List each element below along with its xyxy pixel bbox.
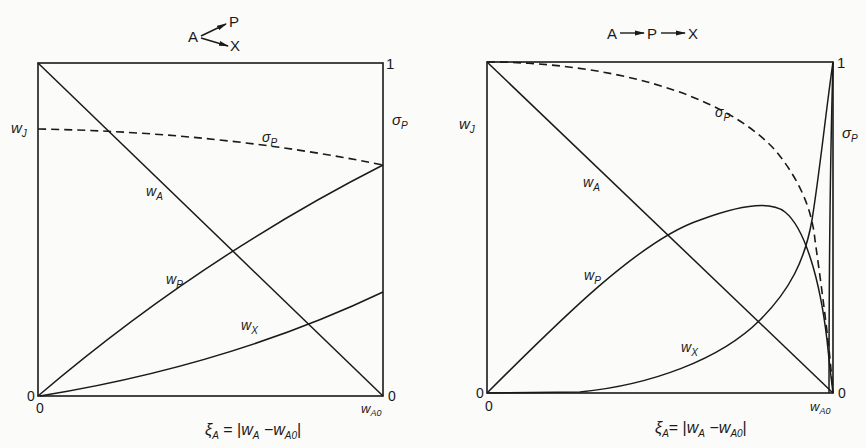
left-chart: A P X wA σP wP wX wJ σP 1 0 0 0 wA0 ξA =… (11, 13, 408, 441)
left-curve-wP (38, 165, 383, 396)
left-y2-axis-label: σP (392, 111, 408, 131)
scheme-product-x: X (230, 37, 240, 54)
left-curve-sigmaP (38, 129, 383, 165)
right-curve-wP (487, 205, 833, 393)
arrow-to-x-icon (201, 38, 228, 46)
left-curve-wA (38, 63, 383, 396)
scheme-reactant-a: A (188, 28, 198, 45)
right-x-axis-label: ξA= |wA −wA0| (655, 419, 747, 439)
arrow-to-p-icon (201, 24, 226, 36)
left-y-tick-zero: 0 (27, 388, 35, 404)
left-y2-tick-one: 1 (386, 55, 394, 72)
right-y-axis-label: wJ (459, 115, 476, 135)
right-chart: A P X wA σP wP wX wJ σP 1 0 0 0 wA0 ξA= … (459, 25, 858, 439)
right-x-tick-wA0: wA0 (810, 399, 830, 416)
right-label-wP: wP (584, 267, 601, 286)
scheme-product-p: P (229, 13, 239, 30)
figure-canvas: A P X wA σP wP wX wJ σP 1 0 0 0 wA0 ξA =… (0, 0, 866, 448)
left-x-axis-label: ξA = |wA −wA0| (205, 421, 301, 441)
left-label-wP: wP (166, 271, 183, 290)
left-label-wX: wX (241, 317, 258, 336)
left-x-tick-wA0: wA0 (361, 401, 381, 418)
right-curve-wA (487, 62, 833, 393)
right-x-tick-zero: 0 (485, 398, 493, 414)
right-y2-tick-zero: 0 (838, 385, 846, 401)
scheme-product-x: X (688, 25, 698, 42)
scheme-reactant-a: A (607, 25, 617, 42)
left-y2-tick-zero: 0 (388, 388, 396, 404)
left-label-wA: wA (146, 183, 163, 202)
left-y-axis-label: wJ (11, 119, 28, 139)
right-y2-axis-label: σP (842, 124, 858, 144)
right-label-wA: wA (583, 174, 600, 193)
right-reaction-scheme: A P X (607, 25, 698, 42)
left-curve-wX (40, 292, 383, 396)
left-reaction-scheme: A P X (188, 13, 240, 54)
right-y-tick-zero: 0 (476, 385, 484, 401)
scheme-intermediate-p: P (647, 25, 657, 42)
right-y2-tick-one: 1 (837, 54, 845, 71)
right-label-wX: wX (681, 339, 698, 358)
right-label-sigmaP: σP (715, 104, 730, 123)
left-x-tick-zero: 0 (36, 400, 44, 416)
